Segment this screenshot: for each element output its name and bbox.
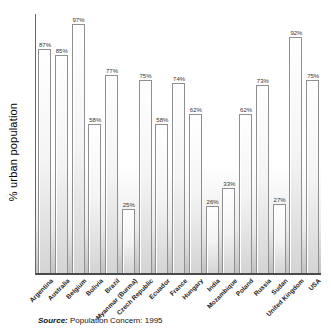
x-tick-label: Poland (235, 277, 255, 297)
y-axis-label: % urban population (7, 103, 19, 201)
plot-area: 87%85%97%58%77%25%75%58%74%62%26%33%62%7… (35, 14, 321, 275)
bar: 75% (139, 80, 152, 273)
x-tick-label: Russia (252, 277, 272, 297)
bar: 75% (306, 80, 319, 273)
bar: 97% (72, 24, 85, 273)
bar: 87% (38, 49, 51, 273)
bar-value-label: 74% (169, 76, 189, 82)
bar: 62% (239, 114, 252, 273)
bar: 74% (172, 83, 185, 273)
bar: 92% (289, 37, 302, 273)
bar: 85% (55, 55, 68, 273)
bar-value-label: 25% (119, 202, 139, 208)
bar-value-label: 73% (253, 78, 273, 84)
bar-value-label: 92% (286, 30, 306, 36)
bar-value-label: 62% (236, 107, 256, 113)
x-tick-label: USA (307, 277, 322, 292)
bar: 58% (155, 124, 168, 273)
bar: 62% (189, 114, 202, 273)
bar: 58% (88, 124, 101, 273)
bar-value-label: 77% (102, 68, 122, 74)
bar: 27% (273, 204, 286, 273)
x-tick-label: Bolivia (84, 277, 104, 297)
bar: 25% (122, 209, 135, 273)
bar-value-label: 75% (136, 73, 156, 79)
source-text: Population Concern: 1995 (68, 316, 163, 325)
urban-population-bar-chart: % urban population 87%85%97%58%77%25%75%… (0, 0, 331, 334)
source-label: Source: (38, 316, 68, 325)
bar-value-label: 97% (69, 17, 89, 23)
bar-value-label: 62% (186, 107, 206, 113)
source-note: Source: Population Concern: 1995 (38, 316, 163, 325)
bar-value-label: 58% (152, 117, 172, 123)
bar: 26% (206, 206, 219, 273)
bar: 33% (222, 188, 235, 273)
bar-value-label: 27% (270, 197, 290, 203)
bar-value-label: 58% (85, 117, 105, 123)
bar-value-label: 75% (303, 73, 323, 79)
bar: 77% (105, 75, 118, 273)
bar-value-label: 85% (52, 48, 72, 54)
bar-value-label: 33% (219, 181, 239, 187)
bar: 73% (256, 85, 269, 273)
bar-value-label: 26% (203, 199, 223, 205)
